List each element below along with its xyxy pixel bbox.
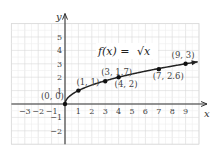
x-tick-label: 7: [156, 107, 161, 116]
point-label: (9, 3): [172, 50, 195, 60]
y-tick-label: −1: [50, 113, 62, 122]
y-axis-label: y: [55, 11, 62, 22]
sqrt-function-graph: −3−2−1123456789−2−112345 (0, 0)(1, 1)(3,…: [0, 0, 220, 155]
point-label: (0, 0): [41, 91, 64, 101]
x-tick-label: 9: [183, 107, 188, 116]
x-tick-label: 5: [129, 107, 134, 116]
x-axis-label: x: [204, 108, 210, 119]
point-label: (1, 1): [76, 77, 99, 87]
y-tick-label: 2: [57, 73, 62, 82]
x-tick-label: 8: [170, 107, 175, 116]
x-tick-label: 1: [76, 107, 81, 116]
function-label-left: f(x) =: [97, 45, 130, 58]
y-tick-label: −2: [50, 127, 62, 136]
x-tick-label: 2: [89, 107, 94, 116]
grid: [11, 24, 199, 145]
x-tick-label: −2: [32, 107, 44, 116]
function-label-radical: √x: [137, 45, 151, 58]
x-tick-label: −3: [19, 107, 31, 116]
y-tick-label: 5: [57, 33, 62, 42]
data-point: [103, 79, 107, 83]
function-label: f(x) = √x: [96, 43, 158, 59]
y-tick-label: 4: [57, 46, 62, 55]
data-point: [63, 102, 67, 106]
point-label: (7, 2.6): [153, 71, 184, 81]
x-tick-label: 3: [103, 107, 108, 116]
point-label: (4, 2): [115, 79, 138, 89]
y-tick-label: 3: [57, 60, 62, 69]
data-point: [183, 62, 187, 66]
data-point: [76, 88, 80, 92]
point-label: (3, 1.7): [101, 67, 132, 77]
x-tick-label: 6: [143, 107, 148, 116]
x-tick-label: 4: [116, 107, 121, 116]
